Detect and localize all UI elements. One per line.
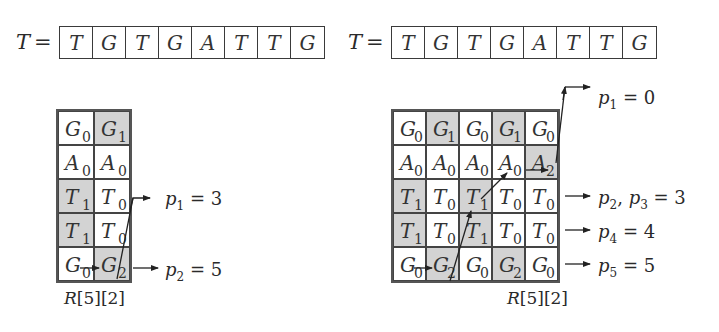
- cell-count: 0: [546, 265, 555, 281]
- cell-char: A: [532, 151, 546, 175]
- caption-name: R: [507, 288, 520, 308]
- matrix-cell: T0: [525, 179, 558, 213]
- text-cell: T: [557, 27, 590, 58]
- matrix-cell: G0: [459, 247, 492, 281]
- cell-count: 1: [480, 231, 489, 247]
- cell-count: 1: [82, 197, 91, 213]
- cell-count: 0: [414, 129, 423, 145]
- cell-char: T: [532, 219, 545, 243]
- matrix-cell: A0: [58, 145, 94, 179]
- cell-count: 0: [513, 231, 522, 247]
- cell-count: 1: [447, 129, 456, 145]
- text-cell: G: [159, 27, 192, 58]
- cell-char: A: [466, 151, 480, 175]
- text-cell: G: [425, 27, 458, 58]
- matrix-cell: G2: [94, 247, 130, 281]
- matrix-cell: G0: [393, 247, 426, 281]
- cell-count: 0: [447, 163, 456, 179]
- cell-count: 2: [513, 265, 522, 281]
- cell-count: 1: [414, 231, 423, 247]
- matrix-cell: A0: [426, 145, 459, 179]
- cell-count: 1: [118, 129, 127, 145]
- matrix-row: G0G1G0G1G0: [393, 111, 558, 145]
- matrix-cell: A0: [459, 145, 492, 179]
- matrix-cell: T0: [94, 179, 130, 213]
- output-value: = 0: [617, 87, 655, 108]
- cell-char: A: [499, 151, 513, 175]
- text-cell: G: [93, 27, 126, 58]
- cell-count: 0: [82, 163, 91, 179]
- matrix-row: T1T0T1T0T0: [393, 179, 558, 213]
- matrix-cell: T1: [393, 179, 426, 213]
- cell-count: 0: [480, 129, 489, 145]
- left-r-matrix: G0G1A0A0T1T0T1T0G0G2: [56, 109, 132, 283]
- cell-count: 1: [513, 129, 522, 145]
- cell-count: 0: [546, 231, 555, 247]
- text-cell: T: [126, 27, 159, 58]
- cell-count: 1: [480, 197, 489, 213]
- cell-count: 1: [414, 197, 423, 213]
- cell-count: 0: [447, 231, 456, 247]
- left-output-p2: p2 = 5: [165, 259, 222, 284]
- cell-char: T: [400, 219, 413, 243]
- cell-char: G: [101, 117, 117, 141]
- cell-count: 0: [414, 163, 423, 179]
- text-cell: T: [258, 27, 291, 58]
- right-text-label: T=: [348, 32, 384, 53]
- cell-char: T: [65, 219, 78, 243]
- left-text-array: T G T G A T T G: [59, 26, 325, 59]
- output-var: p: [598, 87, 610, 108]
- cell-count: 0: [513, 197, 522, 213]
- matrix-cell: A0: [492, 145, 525, 179]
- right-output-p2-p3: p2, p3 = 3: [598, 187, 686, 212]
- output-value: = 4: [617, 221, 655, 242]
- matrix-cell: T0: [492, 213, 525, 247]
- matrix-cell: G0: [393, 111, 426, 145]
- cell-count: 0: [118, 231, 127, 247]
- cell-char: T: [433, 219, 446, 243]
- cell-char: T: [466, 185, 479, 209]
- matrix-cell: G1: [426, 111, 459, 145]
- cell-char: T: [433, 185, 446, 209]
- text-variable: T: [348, 30, 362, 54]
- cell-count: 1: [82, 231, 91, 247]
- cell-count: 0: [82, 129, 91, 145]
- cell-count: 2: [447, 265, 456, 281]
- matrix-cell: G0: [58, 111, 94, 145]
- text-cell: G: [491, 27, 524, 58]
- caption-index: [5][2]: [77, 288, 125, 308]
- equals-sign: =: [34, 30, 52, 54]
- cell-count: 0: [118, 163, 127, 179]
- matrix-cell: G0: [459, 111, 492, 145]
- cell-char: T: [101, 185, 114, 209]
- cell-count: 2: [546, 163, 555, 179]
- cell-count: 0: [414, 265, 423, 281]
- cell-count: 0: [82, 265, 91, 281]
- matrix-cell: T1: [459, 213, 492, 247]
- matrix-cell: G2: [492, 247, 525, 281]
- text-cell: A: [524, 27, 557, 58]
- cell-char: T: [466, 219, 479, 243]
- matrix-cell: G0: [525, 247, 558, 281]
- left-text-label: T=: [16, 32, 52, 53]
- matrix-cell: G0: [58, 247, 94, 281]
- matrix-row: G0G2: [58, 247, 130, 281]
- matrix-row: T1T0: [58, 213, 130, 247]
- output-value: = 3: [184, 188, 222, 209]
- left-matrix-caption: R[5][2]: [64, 288, 125, 308]
- matrix-row: G0G1: [58, 111, 130, 145]
- cell-char: T: [499, 219, 512, 243]
- output-var: p: [598, 187, 610, 208]
- right-output-p4: p4 = 4: [598, 221, 655, 246]
- cell-count: 0: [480, 265, 489, 281]
- text-cell: T: [392, 27, 425, 58]
- cell-count: 0: [513, 163, 522, 179]
- matrix-cell: T0: [525, 213, 558, 247]
- cell-count: 0: [480, 163, 489, 179]
- cell-char: T: [400, 185, 413, 209]
- right-output-p1: p1 = 0: [598, 87, 655, 112]
- matrix-row: T1T0: [58, 179, 130, 213]
- output-value: = 3: [648, 187, 686, 208]
- output-value: = 5: [617, 255, 655, 276]
- right-r-matrix: G0G1G0G1G0A0A0A0A0A2T1T0T1T0T0T1T0T1T0T0…: [391, 109, 560, 283]
